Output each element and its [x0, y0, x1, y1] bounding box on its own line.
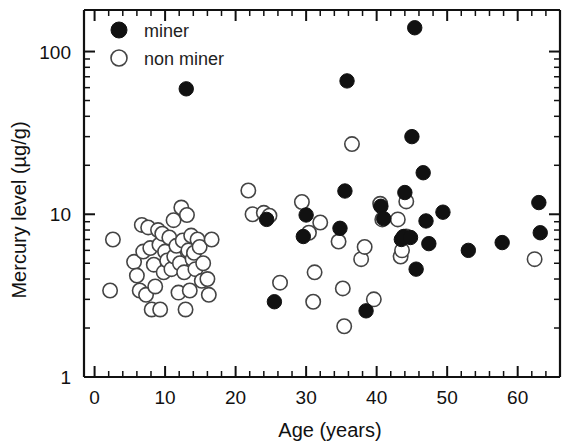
data-point-miner	[259, 212, 273, 226]
scatter-plot-figure: 110100 0102030405060 miner non miner Mer…	[0, 0, 566, 446]
data-point-miner	[405, 129, 419, 143]
y-tick-label: 1	[60, 367, 71, 388]
x-tick-label: 60	[507, 387, 528, 408]
x-tick-label: 20	[225, 387, 246, 408]
legend-marker-miner	[111, 22, 127, 38]
data-point-non-miner	[130, 268, 144, 282]
data-point-miner	[532, 195, 546, 209]
data-point-miner	[436, 205, 450, 219]
data-point-non-miner	[337, 319, 351, 333]
data-point-miner	[422, 236, 436, 250]
data-point-non-miner	[200, 272, 214, 286]
data-point-miner	[359, 304, 373, 318]
data-point-miner	[461, 243, 475, 257]
x-tick-label: 0	[89, 387, 100, 408]
data-point-non-miner	[391, 212, 405, 226]
y-axis-title: Mercury level (µg/g)	[8, 121, 30, 298]
data-point-non-miner	[183, 283, 197, 297]
data-point-miner	[377, 211, 391, 225]
data-point-non-miner	[166, 213, 180, 227]
data-point-non-miner	[295, 195, 309, 209]
data-point-non-miner	[357, 240, 371, 254]
data-point-non-miner	[241, 183, 255, 197]
data-point-non-miner	[106, 232, 120, 246]
data-point-non-miner	[180, 208, 194, 222]
data-point-non-miner	[178, 302, 192, 316]
data-point-non-miner	[103, 283, 117, 297]
data-point-non-miner	[148, 279, 162, 293]
x-axis-title: Age (years)	[278, 419, 381, 441]
data-point-non-miner	[306, 295, 320, 309]
data-point-miner	[419, 214, 433, 228]
data-point-miner	[533, 226, 547, 240]
y-tick-label: 100	[39, 42, 71, 63]
x-tick-label: 50	[437, 387, 458, 408]
data-point-non-miner	[202, 288, 216, 302]
data-point-miner	[299, 208, 313, 222]
data-point-miner	[296, 229, 310, 243]
legend-marker-non-miner	[111, 50, 127, 66]
data-point-miner	[495, 235, 509, 249]
data-point-non-miner	[153, 302, 167, 316]
data-point-miner	[179, 82, 193, 96]
data-point-miner	[340, 74, 354, 88]
legend-label-miner: miner	[144, 21, 189, 41]
data-point-miner	[267, 295, 281, 309]
data-point-non-miner	[313, 215, 327, 229]
data-point-miner	[338, 184, 352, 198]
y-tick-label: 10	[50, 204, 71, 225]
legend-label-non-miner: non miner	[144, 49, 224, 69]
data-point-non-miner	[527, 252, 541, 266]
data-point-non-miner	[336, 281, 350, 295]
data-point-non-miner	[273, 275, 287, 289]
data-point-non-miner	[345, 137, 359, 151]
data-point-miner	[409, 262, 423, 276]
data-point-non-miner	[307, 265, 321, 279]
plot-canvas: 110100 0102030405060 miner non miner Mer…	[0, 0, 566, 446]
data-point-miner	[398, 185, 412, 199]
data-point-miner	[416, 166, 430, 180]
x-tick-label: 40	[366, 387, 387, 408]
data-point-non-miner	[331, 234, 345, 248]
data-point-non-miner	[204, 232, 218, 246]
data-point-miner	[408, 21, 422, 35]
data-point-miner	[333, 221, 347, 235]
data-point-non-miner	[196, 256, 210, 270]
x-tick-label: 10	[155, 387, 176, 408]
x-tick-label: 30	[296, 387, 317, 408]
data-point-miner	[403, 230, 417, 244]
